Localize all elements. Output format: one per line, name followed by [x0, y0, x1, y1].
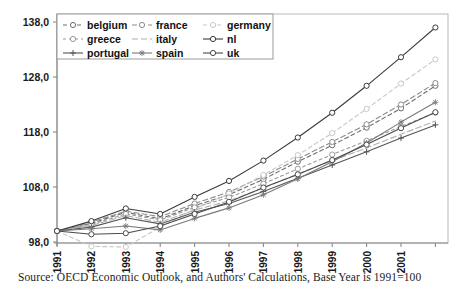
data-point-marker: [330, 110, 335, 115]
data-point-marker: [123, 223, 129, 229]
legend-label: belgium: [87, 19, 127, 31]
data-point-marker: [398, 55, 403, 60]
data-point-marker: [88, 226, 94, 232]
data-point-marker: [433, 57, 438, 62]
data-point-marker: [210, 36, 215, 41]
x-tick-label: 1999: [327, 251, 338, 274]
data-point-marker: [364, 142, 369, 147]
legend-label: greece: [87, 33, 121, 45]
data-point-marker: [295, 172, 300, 177]
data-point-marker: [364, 83, 369, 88]
x-tick-label: 1994: [155, 251, 166, 274]
data-point-marker: [398, 102, 403, 107]
data-point-marker: [210, 22, 215, 27]
data-point-marker: [70, 22, 75, 27]
data-point-marker: [89, 219, 94, 224]
data-point-marker: [433, 80, 438, 85]
data-point-marker: [123, 231, 128, 236]
data-point-marker: [330, 139, 335, 144]
y-axis-labels: 98,0108,0118,0128,0138,0: [23, 16, 49, 248]
data-point-marker: [432, 122, 438, 128]
series-france: [54, 80, 438, 233]
x-tick-label: 1997: [258, 251, 269, 274]
data-point-marker: [433, 110, 438, 115]
series-germany: [54, 57, 438, 250]
y-tick-label: 118,0: [23, 126, 49, 138]
figure-container: 98,0108,0118,0128,0138,0 199119921993199…: [0, 0, 466, 291]
data-point-marker: [295, 166, 300, 171]
data-point-marker: [139, 50, 145, 56]
data-point-marker: [261, 158, 266, 163]
data-point-marker: [89, 244, 94, 249]
line-chart: 98,0108,0118,0128,0138,0 199119921993199…: [0, 0, 466, 291]
data-point-marker: [226, 199, 231, 204]
data-point-marker: [54, 228, 59, 233]
data-point-marker: [158, 223, 163, 228]
figure-caption: Source: OECD Economic Outlook, and Autho…: [18, 271, 458, 283]
data-point-marker: [432, 99, 438, 105]
data-point-marker: [398, 135, 404, 141]
data-point-marker: [330, 131, 335, 136]
data-point-marker: [398, 119, 404, 125]
data-point-marker: [123, 244, 128, 249]
data-point-marker: [295, 153, 300, 158]
legend-label: nl: [227, 33, 236, 45]
data-point-marker: [433, 25, 438, 30]
data-point-marker: [398, 81, 403, 86]
series-line: [57, 83, 435, 231]
data-point-marker: [158, 211, 163, 216]
x-tick-label: 1996: [224, 251, 235, 274]
x-tick-label: 2000: [362, 251, 373, 274]
data-point-marker: [210, 50, 215, 55]
y-tick-label: 138,0: [23, 16, 49, 28]
data-point-marker: [364, 106, 369, 111]
data-point-marker: [139, 22, 144, 27]
data-point-marker: [261, 185, 266, 190]
legend-label: germany: [227, 19, 271, 31]
legend-label: france: [156, 19, 188, 31]
data-point-marker: [398, 126, 403, 131]
chart-legend[interactable]: belgiumfrancegermanygreeceitalynlportuga…: [57, 14, 273, 59]
series-line: [57, 86, 435, 231]
x-tick-label: 1992: [86, 251, 97, 274]
x-tick-label: 1995: [190, 251, 201, 274]
data-point-marker: [260, 192, 266, 198]
data-point-marker: [364, 149, 370, 155]
data-point-marker: [330, 157, 335, 162]
x-tick-label: 1998: [293, 251, 304, 274]
legend-label: portugal: [87, 47, 129, 59]
series-belgium: [54, 83, 438, 233]
y-tick-label: 128,0: [23, 71, 49, 83]
data-point-marker: [226, 205, 232, 211]
x-tick-label: 1991: [52, 251, 63, 274]
x-tick-label: 2001: [396, 251, 407, 274]
x-axis-labels: 1991199219931994199519961997199819992000…: [52, 251, 407, 274]
data-point-marker: [295, 135, 300, 140]
data-point-marker: [192, 211, 197, 216]
legend-label: italy: [156, 33, 177, 45]
data-point-marker: [226, 178, 231, 183]
x-tick-label: 1993: [121, 251, 132, 274]
data-point-marker: [70, 36, 75, 41]
data-point-marker: [261, 172, 266, 177]
data-point-marker: [364, 122, 369, 127]
y-tick-label: 98,0: [29, 236, 50, 248]
legend-label: spain: [156, 47, 183, 59]
series-line: [57, 102, 435, 231]
data-point-marker: [123, 206, 128, 211]
y-tick-label: 108,0: [23, 181, 49, 193]
legend-label: uk: [227, 47, 239, 59]
data-point-marker: [330, 152, 335, 157]
data-point-marker: [89, 232, 94, 237]
data-point-marker: [192, 194, 197, 199]
